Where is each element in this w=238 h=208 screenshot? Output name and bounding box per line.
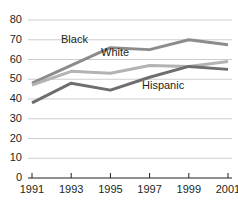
x-axis-tick-label: 1993 bbox=[54, 183, 88, 195]
x-axis-tick-label: 1999 bbox=[172, 183, 206, 195]
y-axis-tick-label: 80 bbox=[0, 13, 22, 25]
y-axis-tick-label: 50 bbox=[0, 72, 22, 84]
y-axis-tick-label: 0 bbox=[0, 171, 22, 183]
series-lines bbox=[32, 40, 228, 103]
line-chart: 01020304050607080 1991199319951997199920… bbox=[0, 0, 238, 208]
series-line-white bbox=[32, 61, 228, 85]
chart-plot-area bbox=[0, 0, 238, 208]
series-line-black bbox=[32, 40, 228, 83]
y-axis-tick-label: 20 bbox=[0, 132, 22, 144]
y-axis-tick-label: 30 bbox=[0, 112, 22, 124]
x-axis-tick-label: 2001 bbox=[211, 183, 238, 195]
y-axis-tick-label: 40 bbox=[0, 92, 22, 104]
y-axis-tick-label: 70 bbox=[0, 33, 22, 45]
x-axis-ticks bbox=[32, 173, 228, 178]
series-label-white: White bbox=[101, 46, 129, 58]
series-label-hispanic: Hispanic bbox=[142, 79, 184, 91]
series-line-hispanic bbox=[32, 66, 228, 103]
series-label-black: Black bbox=[61, 33, 88, 45]
x-axis-tick-label: 1995 bbox=[93, 183, 127, 195]
y-axis-tick-label: 60 bbox=[0, 53, 22, 65]
x-axis-tick-label: 1997 bbox=[133, 183, 167, 195]
x-axis-tick-label: 1991 bbox=[15, 183, 49, 195]
y-axis-tick-label: 10 bbox=[0, 151, 22, 163]
